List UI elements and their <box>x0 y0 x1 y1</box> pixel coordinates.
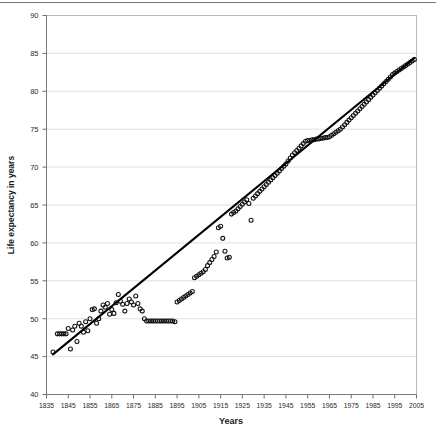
y-tick-label-55: 55 <box>30 277 38 286</box>
x-tick-label-1945: 1945 <box>278 402 293 409</box>
data-point <box>134 294 138 298</box>
x-axis-tick-labels-group: 1835184518551865187518851895190519151925… <box>39 402 424 409</box>
y-tick-label-45: 45 <box>30 352 38 361</box>
data-point <box>68 347 72 351</box>
y-tick-label-70: 70 <box>30 163 38 172</box>
x-tick-label-1855: 1855 <box>82 402 97 409</box>
y-tick-label-65: 65 <box>30 201 38 210</box>
data-point <box>108 312 112 316</box>
data-point <box>132 303 136 307</box>
x-tick-label-1965: 1965 <box>322 402 337 409</box>
y-axis-title: Life expectancy in years <box>6 156 16 255</box>
data-point <box>221 236 225 240</box>
y-tick-label-80: 80 <box>30 87 38 96</box>
data-point <box>84 320 88 324</box>
data-point <box>105 302 109 306</box>
data-point <box>99 309 103 313</box>
x-tick-label-1975: 1975 <box>344 402 359 409</box>
x-tick-label-1905: 1905 <box>191 402 206 409</box>
x-axis-title: Years <box>219 416 243 426</box>
data-point <box>95 321 99 325</box>
x-tick-label-1955: 1955 <box>300 402 315 409</box>
y-axis-ticks-group <box>43 16 47 395</box>
y-tick-label-75: 75 <box>30 125 38 134</box>
data-point <box>86 329 90 333</box>
data-point <box>116 292 120 296</box>
data-point <box>136 302 140 306</box>
gridlines-group <box>47 53 417 356</box>
data-point <box>75 339 79 343</box>
y-axis-tick-labels-group: 4045505560657075808590 <box>30 11 38 399</box>
y-tick-label-60: 60 <box>30 239 38 248</box>
x-tick-label-1935: 1935 <box>257 402 272 409</box>
data-point <box>66 327 70 331</box>
x-tick-label-1995: 1995 <box>387 402 402 409</box>
chart-canvas: 4045505560657075808590 18351845185518651… <box>0 0 436 435</box>
x-tick-label-1835: 1835 <box>39 402 54 409</box>
y-tick-label-85: 85 <box>30 49 38 58</box>
x-tick-label-1925: 1925 <box>235 402 250 409</box>
data-point <box>79 324 83 328</box>
data-point <box>123 309 127 313</box>
y-tick-label-90: 90 <box>30 11 38 20</box>
x-tick-label-2005: 2005 <box>409 402 424 409</box>
x-tick-label-1915: 1915 <box>213 402 228 409</box>
y-tick-label-50: 50 <box>30 315 38 324</box>
data-point <box>214 250 218 254</box>
x-axis-ticks-group <box>47 395 417 399</box>
data-point <box>223 249 227 253</box>
x-tick-label-1985: 1985 <box>365 402 380 409</box>
x-tick-label-1845: 1845 <box>61 402 76 409</box>
x-tick-label-1885: 1885 <box>148 402 163 409</box>
data-point <box>121 302 125 306</box>
y-tick-label-40: 40 <box>30 390 38 399</box>
data-point <box>249 218 253 222</box>
x-tick-label-1865: 1865 <box>104 402 119 409</box>
data-point <box>112 311 116 315</box>
x-tick-label-1895: 1895 <box>170 402 185 409</box>
x-tick-label-1875: 1875 <box>126 402 141 409</box>
regression-trend-line <box>53 58 414 354</box>
life-expectancy-scatter-chart: 4045505560657075808590 18351845185518651… <box>0 0 436 435</box>
data-point <box>212 255 216 259</box>
data-point <box>125 302 129 306</box>
data-point <box>73 324 77 328</box>
